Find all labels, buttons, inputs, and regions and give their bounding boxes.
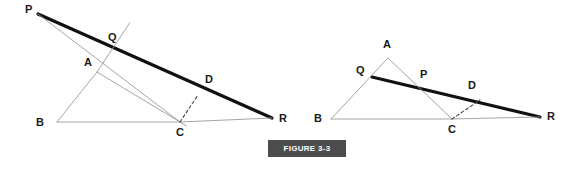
point-label-d-left-diagram: D [205, 73, 213, 85]
point-label-p-left-diagram: P [25, 3, 32, 15]
perpendicular-CD [180, 95, 198, 122]
base-line-CR [452, 117, 540, 119]
point-label-r-left-diagram: R [279, 112, 287, 124]
point-label-b-right-diagram: B [314, 112, 322, 124]
figure-caption-badge: FIGURE 3-3 [268, 140, 346, 157]
perpendicular-CD [452, 100, 480, 119]
point-label-p-right-diagram: P [420, 68, 427, 80]
segment-A-down [97, 72, 187, 126]
point-label-b-left-diagram: B [36, 116, 44, 128]
point-label-q-left-diagram: Q [108, 31, 117, 43]
point-label-a-left-diagram: A [84, 56, 92, 68]
point-label-a-right-diagram: A [383, 38, 391, 50]
point-label-q-right-diagram: Q [356, 64, 365, 76]
point-label-d-right-diagram: D [468, 79, 476, 91]
thick-line-QR [372, 77, 540, 117]
triangle-side-AB [57, 72, 97, 122]
diagram-labels-layer: PQABCDRAQPBCDR [25, 3, 555, 138]
point-label-c-right-diagram: C [448, 123, 456, 135]
point-label-r-right-diagram: R [547, 110, 555, 122]
figure-container: PQABCDRAQPBCDR FIGURE 3-3 [0, 0, 580, 171]
base-line-CR [180, 118, 272, 122]
point-label-c-left-diagram: C [176, 126, 184, 138]
